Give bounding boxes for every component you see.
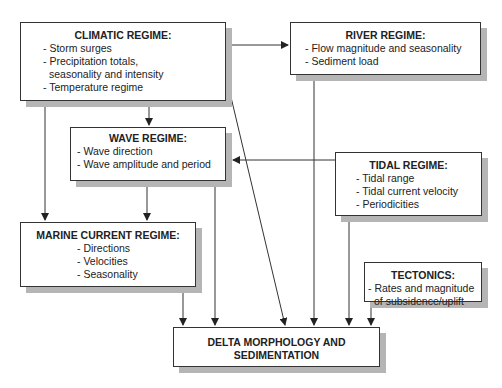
climatic-item: - Temperature regime (43, 81, 225, 94)
climatic-regime-box: CLIMATIC REGIME: - Storm surges - Precip… (20, 22, 226, 101)
delta-title-line-1: DELTA MORPHOLOGY AND (174, 336, 379, 349)
river-regime-box: RIVER REGIME: - Flow magnitude and seaso… (290, 22, 481, 75)
delta-title-line-2: SEDIMENTATION (174, 349, 379, 362)
tectonics-item: - Rates and magnitude (368, 282, 481, 295)
marine-item: - Velocities (77, 255, 195, 268)
wave-item: - Wave direction (77, 145, 225, 158)
tidal-item: - Tidal current velocity (356, 185, 481, 198)
climatic-item: - Precipitation totals, (43, 55, 225, 68)
marine-item: - Directions (77, 242, 195, 255)
edge-climatic-delta (226, 76, 285, 325)
tidal-regime-title: TIDAL REGIME: (336, 159, 481, 172)
tidal-item: - Tidal range (356, 172, 481, 185)
river-item: - Sediment load (305, 55, 480, 68)
wave-item: - Wave amplitude and period (77, 158, 225, 171)
climatic-regime-title: CLIMATIC REGIME: (21, 29, 225, 42)
river-regime-title: RIVER REGIME: (291, 29, 480, 42)
tidal-regime-box: TIDAL REGIME: - Tidal range - Tidal curr… (335, 152, 482, 216)
climatic-item: - Storm surges (43, 42, 225, 55)
river-item: - Flow magnitude and seasonality (305, 42, 480, 55)
tectonics-box: TECTONICS: - Rates and magnitude of subs… (364, 262, 482, 302)
tectonics-title: TECTONICS: (365, 269, 481, 282)
delta-morphology-box: DELTA MORPHOLOGY AND SEDIMENTATION (173, 327, 380, 367)
tidal-item: - Periodicities (356, 198, 481, 211)
marine-current-regime-title: MARINE CURRENT REGIME: (21, 229, 195, 242)
wave-regime-box: WAVE REGIME: - Wave direction - Wave amp… (70, 127, 226, 181)
wave-regime-title: WAVE REGIME: (71, 132, 225, 145)
tectonics-item: of subsidence/uplift (368, 295, 481, 308)
marine-item: - Seasonality (77, 268, 195, 281)
marine-current-regime-box: MARINE CURRENT REGIME: - Directions - Ve… (20, 222, 196, 287)
climatic-item: seasonality and intensity (43, 68, 225, 81)
